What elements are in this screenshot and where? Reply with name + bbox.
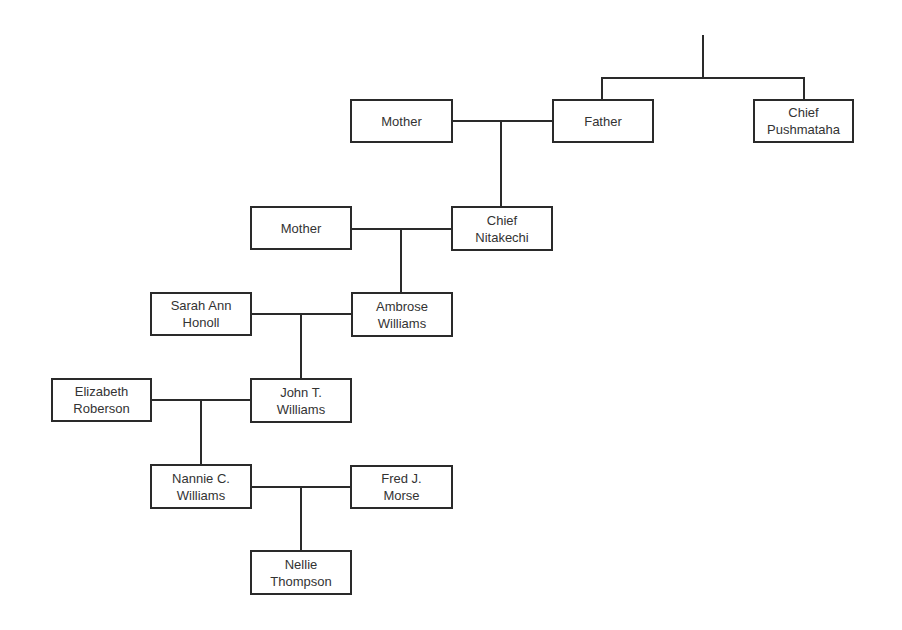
person-box-chief-pushmataha: Chief Pushmataha <box>753 99 854 143</box>
person-box-sarah-ann-honoll: Sarah Ann Honoll <box>150 292 252 336</box>
connector-child-5 <box>300 486 302 551</box>
person-name: Elizabeth Roberson <box>73 383 129 417</box>
connector-sibling-bar <box>601 77 805 79</box>
person-name: Mother <box>381 113 421 130</box>
connector-root-stem <box>702 35 704 79</box>
family-tree-diagram: MotherFatherChief PushmatahaMotherChief … <box>0 0 902 630</box>
person-box-nannie-c-williams: Nannie C. Williams <box>150 464 252 509</box>
person-name: Mother <box>281 220 321 237</box>
person-box-fred-j-morse: Fred J. Morse <box>350 465 453 509</box>
person-box-john-t-williams: John T. Williams <box>250 378 352 423</box>
person-name: Chief Pushmataha <box>767 104 840 138</box>
connector-father-drop <box>601 77 603 100</box>
person-name: John T. Williams <box>277 384 325 418</box>
connector-child-1 <box>500 120 502 207</box>
person-name: Chief Nitakechi <box>475 212 528 246</box>
person-name: Ambrose Williams <box>376 298 428 332</box>
person-name: Nellie Thompson <box>270 556 331 590</box>
person-name: Nannie C. Williams <box>172 470 230 504</box>
person-box-father: Father <box>552 99 654 143</box>
person-name: Sarah Ann Honoll <box>171 297 232 331</box>
connector-child-2 <box>400 228 402 293</box>
connector-pushmataha-drop <box>803 77 805 100</box>
person-box-chief-nitakechi: Chief Nitakechi <box>451 206 553 251</box>
person-box-elizabeth-roberson: Elizabeth Roberson <box>51 378 152 422</box>
connector-marriage-1 <box>452 120 553 122</box>
connector-child-3 <box>300 313 302 379</box>
person-box-mother-1: Mother <box>350 99 453 143</box>
person-box-nellie-thompson: Nellie Thompson <box>250 550 352 595</box>
connector-child-4 <box>200 399 202 465</box>
person-box-ambrose-williams: Ambrose Williams <box>351 292 453 337</box>
person-name: Fred J. Morse <box>381 470 421 504</box>
person-box-mother-2: Mother <box>250 206 352 250</box>
person-name: Father <box>584 113 622 130</box>
